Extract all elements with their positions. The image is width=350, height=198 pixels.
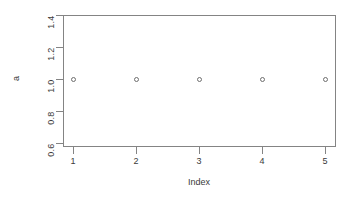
y-axis-tick-label: 0.6 <box>47 144 56 157</box>
x-axis-title: Index <box>188 178 210 187</box>
y-axis-tick-label: 0.8 <box>47 112 56 125</box>
x-axis-tick <box>73 147 74 154</box>
x-axis-tick-label: 2 <box>133 157 138 166</box>
y-axis-tick-label: 1.4 <box>47 16 56 29</box>
x-axis-tick <box>199 147 200 154</box>
x-axis-tick <box>325 147 326 154</box>
data-point <box>71 77 76 82</box>
data-point <box>197 77 202 82</box>
y-axis-tick <box>56 47 63 48</box>
y-axis-title: a <box>12 76 21 81</box>
y-axis-tick-label: 1.2 <box>47 48 56 61</box>
x-axis-tick <box>262 147 263 154</box>
y-axis-tick <box>56 111 63 112</box>
x-axis-tick <box>136 147 137 154</box>
y-axis-tick <box>56 143 63 144</box>
scatter-plot-figure: 0.6 0.8 1.0 1.2 1.4 1 2 3 4 5 a Index <box>0 0 350 198</box>
y-axis-tick <box>56 79 63 80</box>
x-axis-tick-label: 4 <box>259 157 264 166</box>
data-point <box>260 77 265 82</box>
x-axis-tick-label: 1 <box>70 157 75 166</box>
y-axis-tick-label: 1.0 <box>47 80 56 93</box>
x-axis-tick-label: 3 <box>196 157 201 166</box>
data-point <box>134 77 139 82</box>
y-axis-tick <box>56 15 63 16</box>
data-point <box>323 77 328 82</box>
x-axis-tick-label: 5 <box>322 157 327 166</box>
